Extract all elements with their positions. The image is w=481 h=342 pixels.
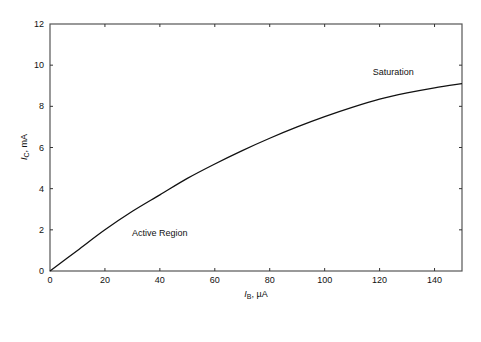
annotations: Active RegionSaturation — [132, 67, 414, 238]
ic-vs-ib-curve — [50, 84, 462, 271]
x-tick-label: 0 — [47, 275, 52, 285]
axis-ticks: 020406080100120140024681012 — [34, 19, 462, 285]
annotation-label: Saturation — [373, 67, 414, 77]
x-tick-label: 80 — [265, 275, 275, 285]
y-tick-label: 0 — [39, 266, 44, 276]
x-axis-label: IB, µA — [244, 289, 267, 300]
y-tick-label: 2 — [39, 225, 44, 235]
x-tick-label: 40 — [155, 275, 165, 285]
x-tick-label: 100 — [317, 275, 332, 285]
y-tick-label: 6 — [39, 143, 44, 153]
y-axis-label: IC, mA — [19, 134, 30, 160]
plot-frame — [50, 24, 462, 271]
x-tick-label: 60 — [210, 275, 220, 285]
x-tick-label: 140 — [427, 275, 442, 285]
y-tick-label: 10 — [34, 60, 44, 70]
plot-border — [50, 24, 462, 271]
y-tick-label: 8 — [39, 101, 44, 111]
x-tick-label: 20 — [100, 275, 110, 285]
annotation-label: Active Region — [132, 228, 188, 238]
y-tick-label: 4 — [39, 184, 44, 194]
y-tick-label: 12 — [34, 19, 44, 29]
chart: 020406080100120140024681012 IC, mA IB, µ… — [0, 0, 481, 342]
x-tick-label: 120 — [372, 275, 387, 285]
